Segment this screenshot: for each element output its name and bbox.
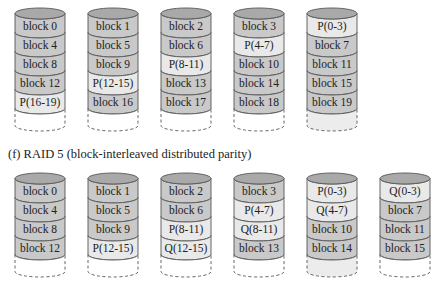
raid5-disk-2: block 2block 6P(8-11)block 13block 17: [160, 7, 212, 138]
block-label: P(0-3): [317, 20, 347, 33]
raid5-disk-1: block 1block 5block 9P(12-15)block 16: [87, 7, 139, 138]
block-label: block 16: [93, 96, 133, 108]
block-label: block 14: [312, 242, 352, 254]
disk-top-cap: [161, 173, 211, 184]
raid6-disk-3: block 3P(4-7)Q(8-11)block 13: [233, 172, 285, 284]
block-label: Q(0-3): [389, 185, 420, 198]
raid6-disk-5: Q(0-3)block 7block 11block 15: [379, 172, 431, 284]
block-label: block 2: [169, 20, 203, 32]
block-label: block 6: [169, 204, 203, 216]
block-label: block 10: [239, 58, 279, 70]
block-label: block 1: [96, 185, 130, 197]
block-label: P(12-15): [93, 242, 134, 255]
disk-top-cap: [88, 173, 138, 184]
raid5-caption: (f) RAID 5 (block-interleaved distribute…: [8, 147, 251, 162]
disk-top-cap: [15, 173, 65, 184]
block-label: block 8: [23, 223, 57, 235]
block-label: P(0-3): [317, 185, 347, 198]
block-label: block 2: [169, 185, 203, 197]
block-label: block 5: [96, 39, 130, 51]
block-label: P(16-19): [20, 96, 61, 109]
block-label: block 15: [312, 77, 352, 89]
disk-top-cap: [234, 173, 284, 184]
disk-top-cap: [15, 8, 65, 19]
block-label: block 3: [242, 185, 276, 197]
raid5-disk-0: block 0block 4block 8block 12P(16-19): [14, 7, 66, 138]
block-label: block 15: [385, 242, 425, 254]
disk-top-cap: [161, 8, 211, 19]
block-label: block 5: [96, 204, 130, 216]
block-label: block 11: [312, 58, 352, 70]
block-label: block 6: [169, 39, 203, 51]
disk-top-cap: [234, 8, 284, 19]
block-label: block 18: [239, 96, 279, 108]
block-label: Q(8-11): [241, 223, 278, 236]
disk-top-cap: [307, 8, 357, 19]
block-label: P(8-11): [169, 223, 204, 236]
block-label: block 11: [385, 223, 425, 235]
raid6-disk-2: block 2block 6P(8-11)Q(12-15): [160, 172, 212, 284]
block-label: block 4: [23, 39, 57, 51]
block-label: P(4-7): [244, 204, 274, 217]
block-label: block 14: [239, 77, 279, 89]
disk-top-cap: [88, 8, 138, 19]
block-label: block 1: [96, 20, 130, 32]
block-label: block 12: [20, 77, 60, 89]
block-label: block 7: [388, 204, 422, 216]
block-label: P(12-15): [93, 77, 134, 90]
block-label: block 9: [96, 58, 130, 70]
raid5-disk-4: P(0-3)block 7block 11block 15block 19: [306, 7, 358, 138]
block-label: block 12: [20, 242, 60, 254]
raid6-disk-0: block 0block 4block 8block 12: [14, 172, 66, 284]
block-label: block 3: [242, 20, 276, 32]
block-label: block 7: [315, 39, 349, 51]
block-label: block 19: [312, 96, 352, 108]
block-label: block 8: [23, 58, 57, 70]
block-label: block 4: [23, 204, 57, 216]
raid5-disk-3: block 3P(4-7)block 10block 14block 18: [233, 7, 285, 138]
block-label: block 10: [312, 223, 352, 235]
block-label: block 9: [96, 223, 130, 235]
block-label: block 0: [23, 20, 57, 32]
block-label: Q(12-15): [165, 242, 208, 255]
disk-top-cap: [307, 173, 357, 184]
block-label: block 13: [239, 242, 279, 254]
block-label: block 0: [23, 185, 57, 197]
block-label: block 17: [166, 96, 206, 108]
block-label: Q(4-7): [316, 204, 347, 217]
block-label: block 13: [166, 77, 206, 89]
block-label: P(4-7): [244, 39, 274, 52]
raid6-disk-4: P(0-3)Q(4-7)block 10block 14: [306, 172, 358, 284]
block-label: P(8-11): [169, 58, 204, 71]
disk-top-cap: [380, 173, 430, 184]
raid6-disk-1: block 1block 5block 9P(12-15): [87, 172, 139, 284]
